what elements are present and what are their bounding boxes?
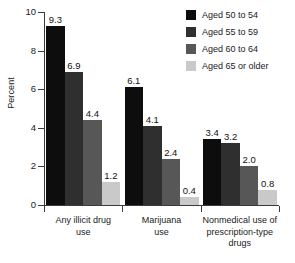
y-axis-tick-label: 2: [0, 160, 36, 171]
y-axis-tick-label: 4: [0, 122, 36, 133]
x-axis-group-label: Nonmedical use ofprescription-typedrugs: [195, 215, 285, 250]
legend-swatch-icon: [186, 27, 196, 37]
x-axis-group-label: Marijuanause: [116, 215, 206, 238]
legend-item: Aged 65 or older: [186, 58, 294, 73]
x-axis-group-label-line: Marijuana: [116, 215, 206, 227]
legend-item: Aged 50 to 54: [186, 7, 294, 22]
bar-value-label: 1.2: [94, 170, 128, 181]
bar-value-label: 0.4: [172, 185, 206, 196]
y-axis-tick-label: 6: [0, 83, 36, 94]
bar-column: 1.2: [102, 12, 121, 205]
bar-chart: Percent 0246810 9.36.94.41.26.14.12.40.4…: [0, 0, 295, 263]
x-axis-group-label-line: Nonmedical use of: [195, 215, 285, 227]
x-axis-group-label-line: use: [116, 227, 206, 239]
x-axis-separator-tick: [44, 206, 45, 212]
x-axis-separator-tick: [279, 206, 280, 212]
bar: [46, 26, 65, 205]
legend-item-label: Aged 60 to 64: [202, 44, 258, 54]
bar: [125, 87, 144, 205]
legend: Aged 50 to 54Aged 55 to 59Aged 60 to 64A…: [186, 7, 294, 75]
x-axis-group-label: Any illicit druguse: [38, 215, 128, 238]
bar-value-label: 0.8: [251, 178, 285, 189]
bar-column: 9.3: [46, 12, 65, 205]
x-axis-line: [44, 205, 279, 206]
legend-item-label: Aged 65 or older: [202, 61, 269, 71]
legend-item-label: Aged 50 to 54: [202, 10, 258, 20]
legend-swatch-icon: [186, 10, 196, 20]
legend-item: Aged 60 to 64: [186, 41, 294, 56]
bar: [102, 182, 121, 205]
bar: [180, 197, 199, 205]
y-axis-tick-label: 0: [0, 199, 36, 210]
bar-group: 9.36.94.41.2: [46, 12, 120, 205]
bar: [162, 159, 181, 205]
x-axis-separator-tick: [201, 206, 202, 212]
bar-column: 4.1: [143, 12, 162, 205]
bar: [221, 143, 240, 205]
y-axis-tick-label: 8: [0, 45, 36, 56]
legend-item-label: Aged 55 to 59: [202, 27, 258, 37]
bar: [83, 120, 102, 205]
legend-item: Aged 55 to 59: [186, 24, 294, 39]
x-axis-group-label-line: prescription-type: [195, 227, 285, 239]
bar: [143, 126, 162, 205]
x-axis-group-label-line: Any illicit drug: [38, 215, 128, 227]
x-axis-group-label-line: drugs: [195, 238, 285, 250]
legend-swatch-icon: [186, 44, 196, 54]
legend-swatch-icon: [186, 61, 196, 71]
bar-column: 6.1: [125, 12, 144, 205]
x-axis-separator-tick: [122, 206, 123, 212]
bar: [258, 190, 277, 205]
bar: [203, 139, 222, 205]
y-axis-tick-label: 10: [0, 6, 36, 17]
bar: [65, 72, 84, 205]
bar-column: 2.4: [162, 12, 181, 205]
x-axis-group-label-line: use: [38, 227, 128, 239]
